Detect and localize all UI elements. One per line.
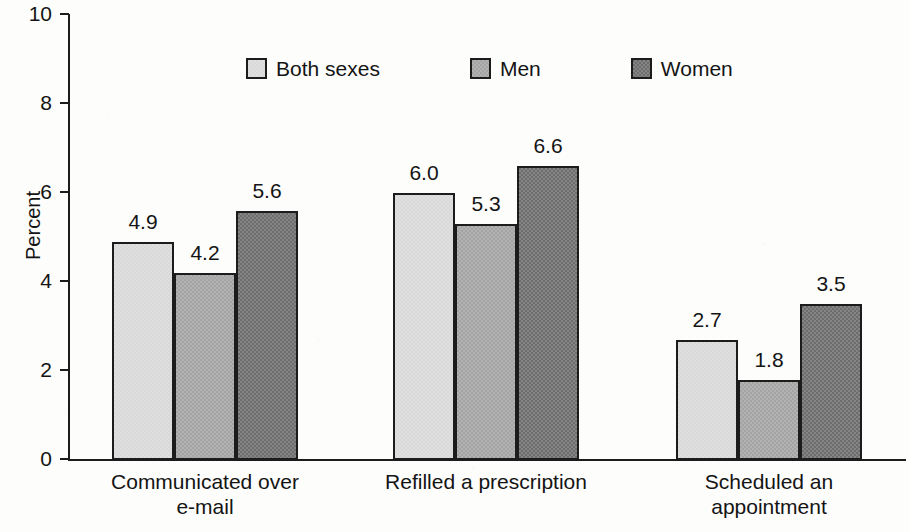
bar <box>455 224 517 460</box>
y-tick-label: 8 <box>12 92 52 113</box>
bar-value-label: 3.5 <box>800 273 862 294</box>
bar-texture <box>457 226 515 458</box>
bar <box>112 242 174 460</box>
category-label-line: Communicated over <box>65 470 345 495</box>
bar-texture <box>519 168 577 458</box>
bar <box>800 304 862 460</box>
bar <box>393 193 455 460</box>
bar-chart: Percent 0246810 Both sexesMenWomen 4.94.… <box>0 0 909 532</box>
bar-texture <box>395 195 453 458</box>
bar-texture <box>740 382 798 458</box>
category-label-line: appointment <box>629 495 909 520</box>
bar-texture <box>176 275 234 458</box>
bar-value-label: 4.2 <box>174 242 236 263</box>
category-label: Refilled a prescription <box>346 470 626 495</box>
y-tick-label: 2 <box>12 359 52 380</box>
bar-value-label: 1.8 <box>738 349 800 370</box>
bar <box>676 340 738 460</box>
bar-texture <box>678 342 736 458</box>
plot-area: 4.94.25.66.05.36.62.71.83.5 <box>68 14 906 460</box>
bar-value-label: 6.0 <box>393 162 455 183</box>
bar <box>236 211 298 460</box>
bar-texture <box>238 213 296 458</box>
bar-value-label: 5.6 <box>236 180 298 201</box>
bar <box>174 273 236 460</box>
category-label: Communicated overe-mail <box>65 470 345 520</box>
y-tick-label: 6 <box>12 181 52 202</box>
y-tick-label: 10 <box>12 3 52 24</box>
bar-value-label: 5.3 <box>455 193 517 214</box>
category-label-line: e-mail <box>65 495 345 520</box>
bar-texture <box>802 306 860 458</box>
bar-texture <box>114 244 172 458</box>
category-label-line: Scheduled an <box>629 470 909 495</box>
bar <box>738 380 800 460</box>
bar <box>517 166 579 460</box>
bar-value-label: 2.7 <box>676 309 738 330</box>
bar-value-label: 6.6 <box>517 135 579 156</box>
category-label-line: Refilled a prescription <box>346 470 626 495</box>
y-tick-label: 0 <box>12 448 52 469</box>
category-label: Scheduled anappointment <box>629 470 909 520</box>
y-tick-label: 4 <box>12 270 52 291</box>
bar-value-label: 4.9 <box>112 211 174 232</box>
